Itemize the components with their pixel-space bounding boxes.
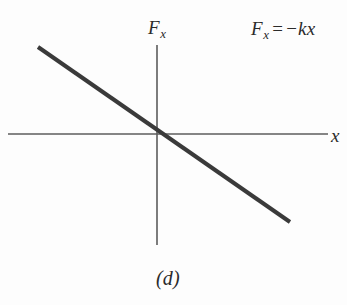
plot-canvas bbox=[0, 0, 347, 305]
equation-symbol: F bbox=[251, 18, 263, 39]
x-axis-label: x bbox=[331, 126, 340, 145]
x-axis-symbol: x bbox=[331, 125, 340, 146]
equation-sign: − bbox=[286, 18, 298, 39]
equation-annotation: Fx=−kx bbox=[251, 19, 315, 42]
y-axis-label: Fx bbox=[148, 18, 166, 41]
equation-operator: = bbox=[269, 18, 286, 39]
figure-background bbox=[0, 0, 347, 305]
figure-caption: (d) bbox=[156, 268, 180, 288]
y-axis-subscript: x bbox=[160, 26, 166, 41]
equation-rhs: kx bbox=[298, 18, 315, 39]
y-axis-symbol: F bbox=[148, 17, 160, 38]
force-vs-displacement-figure: Fx x Fx=−kx (d) bbox=[0, 0, 347, 305]
